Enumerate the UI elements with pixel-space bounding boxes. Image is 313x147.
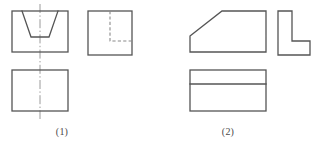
- group-2-views: [190, 11, 310, 111]
- engineering-drawing-figure: (1) (2): [0, 0, 313, 147]
- group-2-side-view: [278, 11, 310, 55]
- group-1-caption: (1): [0, 126, 124, 137]
- group-1-views: [12, 4, 132, 119]
- group-1-side-hidden-edge: [110, 11, 132, 41]
- group-2-top-outline: [190, 70, 266, 111]
- group-1-top-view: [12, 70, 68, 111]
- group-1-top-outline: [12, 70, 68, 111]
- group-2-front-view: [190, 11, 266, 52]
- group-2-caption: (2): [166, 126, 290, 137]
- group-2-top-view: [190, 70, 266, 111]
- orthographic-views-canvas: [0, 0, 313, 147]
- group-2-side-outline-l-shape: [278, 11, 310, 55]
- group-1-side-view: [88, 11, 132, 55]
- group-2-front-outline-chamfered: [190, 11, 266, 52]
